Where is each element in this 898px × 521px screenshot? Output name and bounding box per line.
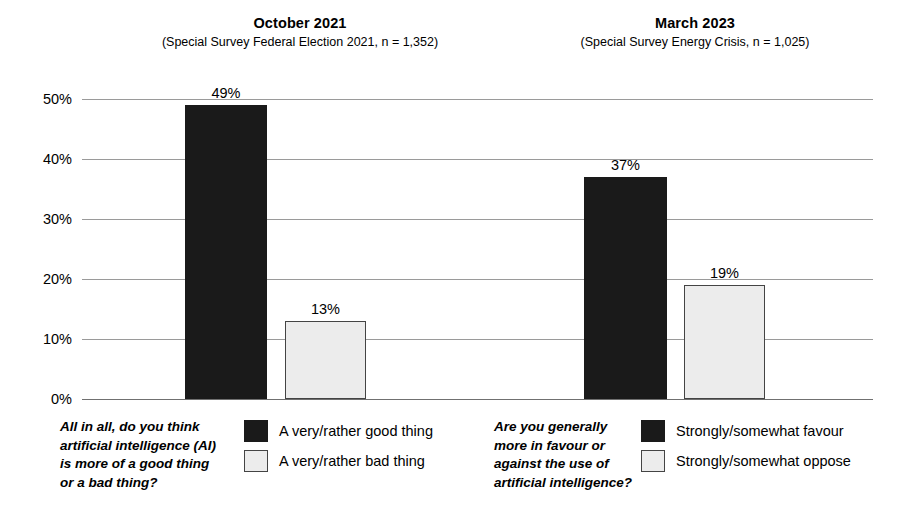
y-axis-tick-30: 30%: [12, 211, 72, 227]
legend-swatch-dark-icon: [244, 420, 268, 442]
bar-label-group2-favour: 37%: [584, 157, 667, 173]
chart-page: October 2021 (Special Survey Federal Ele…: [0, 0, 898, 521]
question-group-1-line-2: artificial intelligence (AI): [60, 437, 270, 456]
legend-label-group1-bad: A very/rather bad thing: [279, 452, 425, 470]
y-axis-tick-20: 20%: [12, 271, 72, 287]
axis-baseline: [82, 399, 873, 400]
question-group-1-line-1: All in all, do you think: [60, 418, 270, 437]
bar-group2-favour[interactable]: [584, 177, 667, 399]
legend-swatch-dark-icon: [641, 420, 665, 442]
legend-group-1: A very/rather good thing A very/rather b…: [244, 416, 433, 476]
legend-label-group2-oppose: Strongly/somewhat oppose: [676, 452, 851, 470]
question-group-1-line-3: is more of a good thing: [60, 455, 270, 474]
legend-group-2: Strongly/somewhat favour Strongly/somewh…: [641, 416, 851, 476]
y-axis-tick-50: 50%: [12, 91, 72, 107]
legend-label-group2-favour: Strongly/somewhat favour: [676, 422, 844, 440]
legend-swatch-light-icon: [641, 450, 665, 472]
legend-item-group2-oppose[interactable]: Strongly/somewhat oppose: [641, 446, 851, 476]
bar-label-group2-oppose: 19%: [684, 265, 765, 281]
legend-item-group2-favour[interactable]: Strongly/somewhat favour: [641, 416, 851, 446]
bar-group1-good[interactable]: [185, 105, 267, 399]
y-axis-tick-0: 0%: [12, 391, 72, 407]
question-group-1: All in all, do you think artificial inte…: [60, 418, 270, 492]
bar-group1-bad[interactable]: [285, 321, 366, 399]
y-axis-tick-40: 40%: [12, 151, 72, 167]
legend-swatch-light-icon: [244, 450, 268, 472]
bar-group2-oppose[interactable]: [684, 285, 765, 399]
y-axis-tick-10: 10%: [12, 331, 72, 347]
legend-item-group1-good[interactable]: A very/rather good thing: [244, 416, 433, 446]
legend-label-group1-good: A very/rather good thing: [279, 422, 433, 440]
bar-label-group1-good: 49%: [186, 85, 266, 101]
legend-item-group1-bad[interactable]: A very/rather bad thing: [244, 446, 433, 476]
question-group-2-line-4: artificial intelligence?: [494, 474, 704, 493]
bar-label-group1-bad: 13%: [285, 301, 366, 317]
question-group-1-line-4: or a bad thing?: [60, 474, 270, 493]
